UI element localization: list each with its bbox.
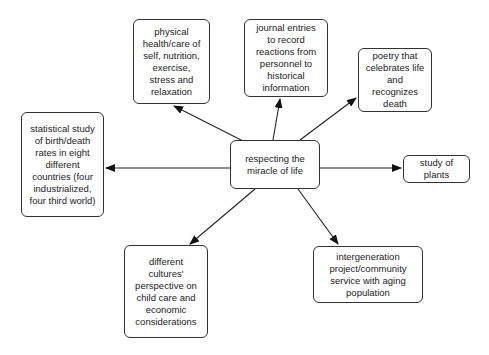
edge-center-to-physical <box>174 106 245 142</box>
node-poetry: poetry that celebrates life and recogniz… <box>358 48 432 112</box>
node-center-respecting-life: respecting the miracle of life <box>230 140 320 189</box>
node-journal-entries: journal entries to record reactions from… <box>244 19 328 97</box>
node-journal-entries-label: journal entries to record reactions from… <box>256 22 316 94</box>
node-physical-health: physical health/care of self, nutrition,… <box>133 19 210 104</box>
node-study-of-plants-label: study of plants <box>408 157 465 181</box>
edge-center-to-poetry <box>300 98 356 140</box>
node-physical-health-label: physical health/care of self, nutrition,… <box>143 26 201 98</box>
node-poetry-label: poetry that celebrates life and recogniz… <box>363 50 427 110</box>
node-statistical-study-label: statistical study of birth/death rates i… <box>30 123 96 207</box>
node-center-label: respecting the miracle of life <box>245 153 305 177</box>
node-intergeneration-project: intergeneration project/community servic… <box>313 246 423 303</box>
node-study-of-plants: study of plants <box>403 155 470 183</box>
edge-center-to-journal <box>273 99 280 140</box>
node-statistical-study: statistical study of birth/death rates i… <box>21 112 104 217</box>
edge-center-to-intergeneration <box>298 189 338 244</box>
node-different-cultures-label: different cultures' perspective on child… <box>135 256 197 328</box>
node-different-cultures: different cultures' perspective on child… <box>124 245 208 338</box>
node-intergeneration-project-label: intergeneration project/community servic… <box>329 251 406 299</box>
edge-center-to-cultures <box>190 189 255 244</box>
